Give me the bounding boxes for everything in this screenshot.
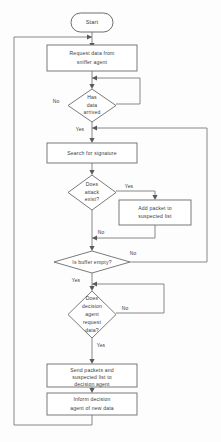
node-agent-request-label-line4: request	[83, 319, 102, 325]
node-search-signature-label: Search for signature	[67, 150, 116, 156]
arrowhead-hasdata-yes	[89, 138, 94, 143]
node-send-packets-label-line3: decision agent	[74, 381, 110, 387]
node-send-packets-label-line1: Send packets and	[70, 367, 114, 373]
edge-label-agent-yes: Yes	[97, 343, 106, 348]
node-add-packet-label-line1: Add packet to	[138, 205, 172, 211]
node-agent-request-label-line2: decision	[82, 303, 102, 309]
edge-label-hasdata-no: No	[53, 99, 60, 104]
arrowhead-request-to-hasdata	[89, 84, 94, 89]
edge-label-agent-no: No	[122, 306, 129, 311]
edge-attack-yes	[116, 191, 155, 197]
edge-label-attack-yes: Yes	[125, 184, 134, 189]
arrowhead-send-to-inform	[89, 388, 94, 393]
flowchart-diagram: Start Request data from sniffer agent Ha…	[0, 0, 221, 442]
node-agent-request-label-line3: agent	[85, 311, 99, 317]
node-inform-agent-label-line2: agent of new data	[70, 405, 114, 411]
node-add-packet-label-line2: suspected list	[138, 213, 172, 219]
arrowhead-buffer-no-loop	[92, 125, 97, 130]
arrowhead-search-to-attack	[89, 170, 94, 175]
node-request-data-label-line1: Request data from	[70, 50, 115, 56]
flowchart-canvas: Start Request data from sniffer agent Ha…	[0, 0, 221, 442]
node-buffer-empty-label: Is buffer empty?	[72, 259, 111, 265]
arrowhead-agent-no-loop	[92, 281, 97, 286]
edge-label-buffer-yes: Yes	[72, 278, 81, 283]
arrowhead-attack-no	[89, 246, 94, 251]
node-attack-exist-label-line1: Does	[86, 181, 99, 187]
arrowhead-addpacket-return	[92, 235, 97, 240]
node-attack-exist-label-line2: attack	[85, 189, 100, 195]
node-request-data-label-line2: sniffer agent	[77, 59, 108, 65]
arrowhead-return-into-request	[87, 34, 92, 39]
node-agent-request-label-line1: Does	[86, 295, 99, 301]
edge-label-hasdata-yes: Yes	[76, 127, 85, 132]
node-agent-request-label-line5: data?	[85, 327, 99, 333]
edge-label-attack-no: No	[98, 230, 105, 235]
arrowhead-agent-yes	[89, 359, 94, 364]
node-attack-exist-label-line3: exist?	[85, 196, 99, 202]
arrowhead-buffer-yes	[89, 286, 94, 291]
node-inform-agent-label-line1: Inform decision	[73, 396, 110, 402]
node-has-data-label-line2: data	[87, 102, 98, 108]
node-has-data-label-line1: Has	[87, 94, 97, 100]
node-start-label: Start	[86, 19, 99, 25]
node-has-data-label-line3: arrived	[84, 109, 101, 115]
node-send-packets-label-line2: suspected list to	[72, 374, 112, 380]
arrowhead-attack-yes	[152, 195, 157, 200]
edge-label-buffer-no: No	[130, 251, 137, 256]
arrowhead-hasdata-no-loop	[92, 75, 97, 80]
